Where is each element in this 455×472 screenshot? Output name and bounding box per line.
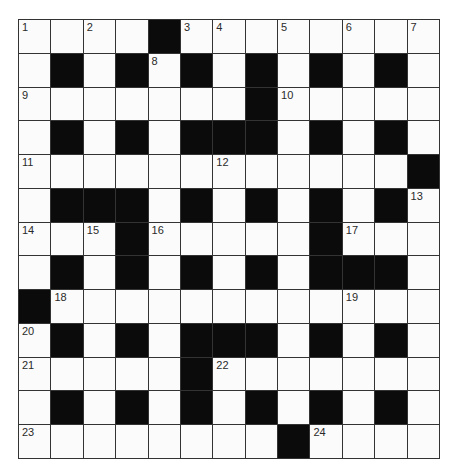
crossword-cell[interactable] (246, 290, 277, 323)
crossword-cell[interactable] (278, 358, 309, 391)
crossword-cell[interactable] (213, 290, 244, 323)
crossword-cell[interactable] (375, 290, 406, 323)
crossword-cell[interactable] (181, 425, 212, 458)
crossword-cell[interactable] (408, 121, 439, 154)
crossword-cell[interactable] (116, 155, 147, 188)
crossword-cell[interactable]: 19 (343, 290, 374, 323)
crossword-cell[interactable] (51, 358, 82, 391)
crossword-cell[interactable]: 3 (181, 20, 212, 53)
crossword-cell[interactable] (278, 189, 309, 222)
crossword-cell[interactable]: 13 (408, 189, 439, 222)
crossword-cell[interactable] (375, 88, 406, 121)
crossword-cell[interactable] (246, 155, 277, 188)
crossword-cell[interactable]: 15 (84, 223, 115, 256)
crossword-cell[interactable] (116, 358, 147, 391)
crossword-cell[interactable]: 1 (19, 20, 50, 53)
crossword-cell[interactable] (149, 290, 180, 323)
crossword-cell[interactable]: 21 (19, 358, 50, 391)
crossword-cell[interactable] (343, 425, 374, 458)
crossword-cell[interactable] (408, 425, 439, 458)
crossword-cell[interactable] (19, 54, 50, 87)
crossword-cell[interactable] (84, 391, 115, 424)
crossword-cell[interactable] (375, 425, 406, 458)
crossword-cell[interactable] (149, 324, 180, 357)
crossword-cell[interactable] (375, 358, 406, 391)
crossword-cell[interactable] (343, 391, 374, 424)
crossword-cell[interactable] (310, 290, 341, 323)
crossword-cell[interactable]: 7 (408, 20, 439, 53)
crossword-cell[interactable]: 17 (343, 223, 374, 256)
crossword-cell[interactable]: 4 (213, 20, 244, 53)
crossword-cell[interactable] (246, 358, 277, 391)
crossword-cell[interactable]: 11 (19, 155, 50, 188)
crossword-cell[interactable] (310, 155, 341, 188)
crossword-cell[interactable] (408, 358, 439, 391)
crossword-cell[interactable] (51, 155, 82, 188)
crossword-cell[interactable] (343, 155, 374, 188)
crossword-cell[interactable] (84, 290, 115, 323)
crossword-cell[interactable] (19, 121, 50, 154)
crossword-cell[interactable] (213, 256, 244, 289)
crossword-cell[interactable]: 5 (278, 20, 309, 53)
crossword-cell[interactable] (343, 358, 374, 391)
crossword-cell[interactable] (51, 88, 82, 121)
crossword-cell[interactable]: 10 (278, 88, 309, 121)
crossword-cell[interactable]: 23 (19, 425, 50, 458)
crossword-cell[interactable] (246, 425, 277, 458)
crossword-cell[interactable] (19, 189, 50, 222)
crossword-cell[interactable] (149, 256, 180, 289)
crossword-cell[interactable] (278, 155, 309, 188)
crossword-cell[interactable]: 24 (310, 425, 341, 458)
crossword-cell[interactable] (408, 88, 439, 121)
crossword-cell[interactable] (278, 223, 309, 256)
crossword-cell[interactable] (19, 391, 50, 424)
crossword-cell[interactable] (343, 121, 374, 154)
crossword-cell[interactable] (84, 324, 115, 357)
crossword-cell[interactable] (310, 20, 341, 53)
crossword-cell[interactable] (84, 358, 115, 391)
crossword-cell[interactable] (408, 223, 439, 256)
crossword-cell[interactable] (181, 290, 212, 323)
crossword-cell[interactable] (84, 155, 115, 188)
crossword-cell[interactable] (149, 425, 180, 458)
crossword-cell[interactable] (149, 155, 180, 188)
crossword-cell[interactable] (84, 88, 115, 121)
crossword-cell[interactable]: 16 (149, 223, 180, 256)
crossword-cell[interactable] (51, 223, 82, 256)
crossword-cell[interactable] (375, 20, 406, 53)
crossword-cell[interactable] (310, 88, 341, 121)
crossword-cell[interactable]: 20 (19, 324, 50, 357)
crossword-cell[interactable] (19, 256, 50, 289)
crossword-cell[interactable] (181, 223, 212, 256)
crossword-cell[interactable]: 22 (213, 358, 244, 391)
crossword-cell[interactable] (278, 324, 309, 357)
crossword-cell[interactable]: 9 (19, 88, 50, 121)
crossword-cell[interactable] (343, 88, 374, 121)
crossword-cell[interactable] (181, 88, 212, 121)
crossword-cell[interactable]: 8 (149, 54, 180, 87)
crossword-cell[interactable]: 6 (343, 20, 374, 53)
crossword-cell[interactable] (408, 256, 439, 289)
crossword-cell[interactable] (408, 54, 439, 87)
crossword-cell[interactable] (343, 54, 374, 87)
crossword-cell[interactable] (408, 391, 439, 424)
crossword-cell[interactable]: 12 (213, 155, 244, 188)
crossword-cell[interactable] (116, 88, 147, 121)
crossword-cell[interactable] (84, 425, 115, 458)
crossword-cell[interactable] (375, 223, 406, 256)
crossword-cell[interactable] (278, 54, 309, 87)
crossword-cell[interactable] (116, 425, 147, 458)
crossword-cell[interactable] (181, 155, 212, 188)
crossword-cell[interactable] (343, 189, 374, 222)
crossword-cell[interactable] (149, 189, 180, 222)
crossword-cell[interactable] (408, 324, 439, 357)
crossword-cell[interactable] (149, 121, 180, 154)
crossword-cell[interactable] (213, 54, 244, 87)
crossword-cell[interactable] (213, 189, 244, 222)
crossword-cell[interactable] (149, 358, 180, 391)
crossword-cell[interactable] (149, 391, 180, 424)
crossword-cell[interactable] (213, 425, 244, 458)
crossword-cell[interactable] (116, 290, 147, 323)
crossword-cell[interactable]: 18 (51, 290, 82, 323)
crossword-cell[interactable] (246, 223, 277, 256)
